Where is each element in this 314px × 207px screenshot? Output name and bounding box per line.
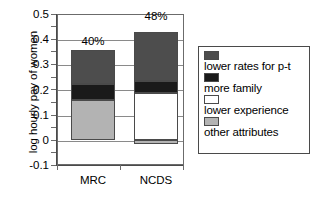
legend: lower rates for p-t more family lower ex…	[198, 46, 310, 154]
bar-segment-more-family[interactable]	[71, 84, 115, 101]
legend-label-other-attributes: other attributes	[204, 126, 304, 139]
legend-label-lower-rates-for-p-t: lower rates for p-t	[204, 60, 304, 73]
bar-segment-lower-experience[interactable]	[134, 93, 178, 140]
bar-segment-other-attributes[interactable]	[134, 140, 178, 144]
legend-swatch-lower-experience	[204, 95, 219, 104]
y-tick-label-0.5: 0.5	[15, 9, 49, 21]
y-tick-label-0.3: 0.3	[15, 59, 49, 71]
legend-entry-lower-rates-for-p-t[interactable]: lower rates for p-t	[204, 51, 304, 73]
bar-value-label-mrc: 40%	[63, 36, 123, 48]
x-tick-label-mrc: MRC	[63, 175, 123, 187]
bar-segment-lower-rates-for-p-t[interactable]	[71, 50, 115, 84]
x-tick-mark	[183, 165, 184, 170]
legend-swatch-lower-rates-for-p-t	[204, 51, 219, 60]
y-tick-label-0: 0	[15, 135, 49, 147]
legend-label-more-family: more family	[204, 82, 304, 95]
x-tick-mark	[120, 165, 121, 170]
bar-value-label-ncds: 48%	[126, 11, 186, 23]
legend-entry-other-attributes[interactable]: other attributes	[204, 117, 304, 139]
legend-entry-lower-experience[interactable]: lower experience	[204, 95, 304, 117]
legend-swatch-other-attributes	[204, 117, 219, 126]
y-tick-label-0.4: 0.4	[15, 34, 49, 46]
bar-ncds[interactable]	[134, 14, 178, 165]
bar-segment-other-attributes[interactable]	[71, 100, 115, 140]
bar-segment-lower-rates-for-p-t[interactable]	[134, 32, 178, 81]
legend-swatch-more-family	[204, 73, 219, 82]
legend-entry-more-family[interactable]: more family	[204, 73, 304, 95]
legend-label-lower-experience: lower experience	[204, 104, 304, 117]
y-tick-label-0.2: 0.2	[15, 85, 49, 97]
x-tick-mark	[57, 165, 58, 170]
y-tick-label-0.1: 0.1	[15, 110, 49, 122]
chart-figure: log hourly pay of women 0.5 0.4 0.3 0.2 …	[0, 0, 314, 207]
x-tick-label-ncds: NCDS	[126, 175, 186, 187]
y-tick-label--0.1: -0.1	[15, 160, 49, 172]
bar-segment-more-family[interactable]	[134, 81, 178, 93]
